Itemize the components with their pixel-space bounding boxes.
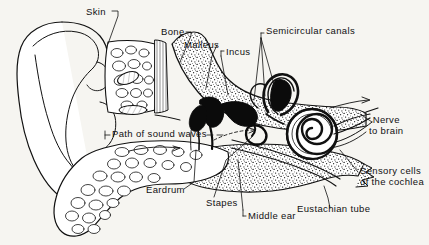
label-path-of-sound-waves: Path of sound waves: [112, 129, 207, 140]
label-semicircular-canals: Semicircular canals: [266, 26, 355, 37]
label-sensory-cells-line1: Sensory cells: [360, 165, 421, 176]
label-stapes: Stapes: [206, 198, 238, 209]
label-nerve-to-brain: Nerve to brain: [369, 114, 404, 136]
label-nerve-to-brain-line2: to brain: [369, 125, 404, 136]
label-middle-ear: Middle ear: [248, 211, 296, 222]
label-incus: Incus: [226, 47, 250, 58]
label-eardrum: Eardrum: [146, 185, 185, 196]
cartilage-tissue-upper: [105, 41, 157, 115]
label-skin: Skin: [86, 7, 106, 18]
label-sensory-cells-of-cochlea: Sensory cells of the cochlea: [360, 165, 424, 187]
cochlea-spiral: [287, 109, 337, 159]
label-sensory-cells-line2: of the cochlea: [360, 176, 424, 187]
label-bone: Bone: [161, 27, 185, 38]
label-malleus: Malleus: [184, 40, 219, 51]
label-eustachian-tube: Eustachian tube: [297, 204, 370, 215]
label-nerve-to-brain-line1: Nerve: [373, 114, 400, 125]
ear-anatomy-diagram: Skin Bone Malleus Incus Semicircular can…: [0, 0, 429, 245]
